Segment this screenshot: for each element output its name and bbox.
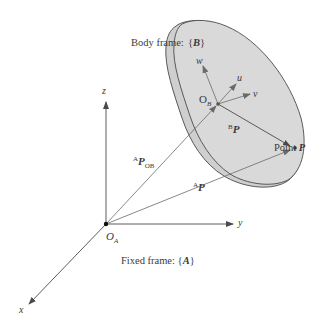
point-P-prefix: Point (274, 142, 299, 153)
frames-diagram (0, 0, 324, 328)
brace-close: } (200, 37, 205, 48)
origin-A-sub: A (114, 237, 118, 245)
origin-B-sub: B (207, 100, 211, 108)
body-frame-text: Body frame: (131, 37, 184, 48)
y-axis-label: y (238, 218, 242, 228)
u-axis-label: u (237, 73, 242, 83)
brace-close: } (190, 255, 195, 266)
frame-A-symbol: A (183, 255, 190, 266)
vector-B-P-label: BP (228, 124, 239, 135)
point-P-label: Point P (274, 143, 305, 154)
vector-A-P-OB-base: P (138, 155, 145, 167)
x-axis (29, 224, 106, 304)
origin-B-dot (216, 102, 220, 106)
fixed-frame-text: Fixed frame: (121, 255, 175, 266)
origin-B-base: O (199, 93, 207, 105)
rigid-body (166, 20, 304, 187)
z-axis-label: z (102, 86, 106, 96)
vector-A-P-OB (106, 106, 216, 224)
vector-A-P-label: AP (193, 182, 205, 193)
frame-B-symbol: B (193, 37, 200, 48)
origin-B-label: OB (199, 94, 211, 108)
vector-A-P-OB-label: APOB (133, 156, 155, 170)
body-frame-label: Body frame: (131, 38, 184, 49)
v-axis-label: v (253, 89, 257, 99)
body-frame-name: {B} (188, 38, 205, 49)
x-axis-label: x (19, 305, 23, 315)
vector-A-P-OB-sub: OB (145, 162, 155, 170)
point-P-symbol: P (299, 142, 305, 153)
origin-A-label: OA (106, 231, 118, 245)
vector-A-P-base: P (198, 181, 205, 193)
w-axis-label: w (196, 56, 203, 66)
fixed-frame-label: Fixed frame: {A} (121, 256, 195, 267)
origin-A-dot (104, 222, 108, 226)
vector-B-P-base: P (233, 123, 240, 135)
origin-A-base: O (106, 230, 114, 242)
